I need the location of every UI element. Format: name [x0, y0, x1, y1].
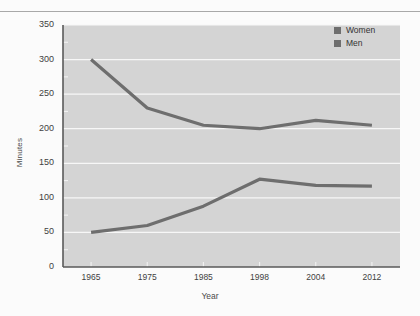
x-tick-label: 1965	[66, 272, 116, 282]
y-tick-label: 300	[14, 54, 54, 64]
x-tick-label: 2004	[291, 272, 341, 282]
legend-label: Women	[346, 24, 375, 37]
x-tick-label: 1985	[178, 272, 228, 282]
legend-item-women: Women	[334, 24, 400, 37]
chart-figure: Minutes Year 050100150200250300350 19651…	[0, 0, 420, 316]
y-tick-label: 100	[14, 192, 54, 202]
x-tick-label: 1975	[122, 272, 172, 282]
legend-item-men: Men	[334, 37, 400, 50]
legend-swatch-icon	[334, 27, 341, 34]
chart-legend: Women Men	[331, 22, 403, 52]
y-tick-label: 200	[14, 123, 54, 133]
x-tick-label: 2012	[347, 272, 397, 282]
legend-label: Men	[346, 37, 363, 50]
x-axis-label: Year	[0, 291, 420, 301]
y-tick-label: 50	[14, 226, 54, 236]
y-tick-label: 350	[14, 19, 54, 29]
y-tick-label: 0	[14, 261, 54, 271]
y-axis-label-wrap: Minutes	[12, 125, 26, 185]
legend-swatch-icon	[334, 40, 341, 47]
y-tick-label: 250	[14, 88, 54, 98]
y-tick-label: 150	[14, 157, 54, 167]
x-tick-label: 1998	[235, 272, 285, 282]
